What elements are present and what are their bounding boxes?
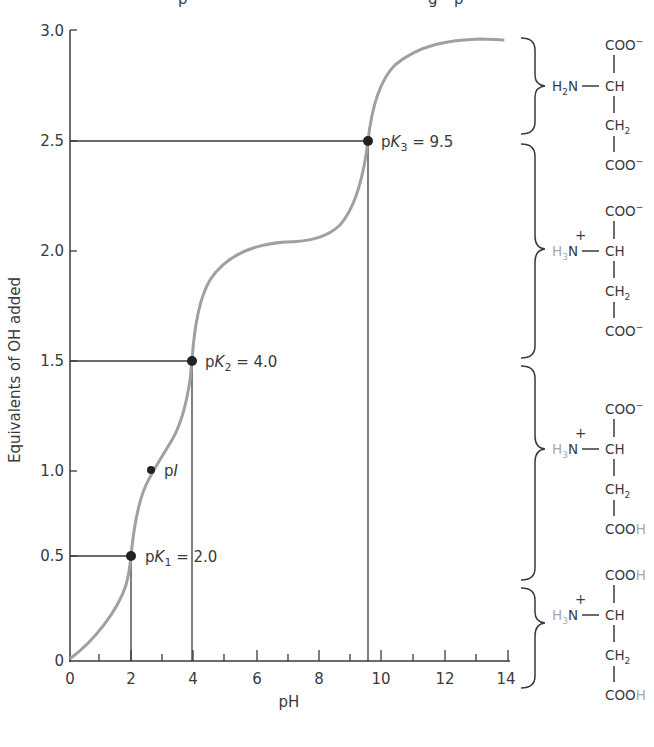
svg-text:CH2: CH2 bbox=[605, 283, 630, 302]
brace-1 bbox=[521, 38, 545, 134]
svg-text:H3N: H3N bbox=[552, 607, 578, 626]
structure-3: COO− + H3N CH CH2 COOH bbox=[552, 400, 646, 537]
svg-text:+: + bbox=[575, 425, 586, 441]
title-fragment-1: p bbox=[178, 0, 188, 8]
x-tick-8: 8 bbox=[314, 670, 324, 688]
pk2-point bbox=[187, 356, 197, 366]
y-ticks bbox=[70, 30, 77, 556]
y-axis-title: Equivalents of OH added bbox=[6, 277, 24, 463]
svg-text:COO−: COO− bbox=[605, 322, 643, 339]
y-tick-0-5: 0.5 bbox=[40, 547, 64, 565]
pi-point bbox=[147, 466, 155, 474]
structure-1: COO− H2N CH CH2 COO− bbox=[552, 36, 643, 173]
data-points bbox=[126, 136, 373, 561]
braces bbox=[521, 38, 545, 688]
pk3-label: pK3 = 9.5 bbox=[381, 133, 453, 154]
x-axis-title: pH bbox=[279, 693, 300, 711]
x-tick-2: 2 bbox=[126, 670, 136, 688]
svg-text:CH2: CH2 bbox=[605, 647, 630, 666]
svg-text:H3N: H3N bbox=[552, 243, 578, 262]
x-tick-12: 12 bbox=[435, 670, 454, 688]
x-tick-14: 14 bbox=[496, 670, 515, 688]
svg-text:CH2: CH2 bbox=[605, 481, 630, 500]
pk1-point bbox=[126, 551, 136, 561]
x-tick-6: 6 bbox=[252, 670, 262, 688]
svg-text:+: + bbox=[575, 591, 586, 607]
x-tick-labels: 0 2 4 6 8 10 12 14 bbox=[65, 670, 515, 688]
brace-2 bbox=[521, 144, 545, 358]
structure-2: COO− + H3N CH CH2 COO− bbox=[552, 202, 643, 339]
svg-text:COOH: COOH bbox=[605, 567, 646, 583]
pk3-point bbox=[363, 136, 373, 146]
svg-text:H3N: H3N bbox=[552, 441, 578, 460]
reference-lines bbox=[70, 141, 368, 661]
svg-text:CH: CH bbox=[605, 78, 625, 94]
y-tick-3-0: 3.0 bbox=[40, 22, 64, 40]
titration-curve bbox=[71, 39, 503, 658]
x-tick-0: 0 bbox=[65, 670, 75, 688]
pi-label: pI bbox=[164, 462, 179, 480]
svg-text:COO−: COO− bbox=[605, 156, 643, 173]
brace-3 bbox=[521, 366, 545, 580]
svg-text:COOH: COOH bbox=[605, 687, 646, 703]
brace-4 bbox=[521, 588, 545, 688]
y-tick-labels: 0 0.5 1.0 1.5 2.0 2.5 3.0 bbox=[40, 22, 64, 670]
title-fragment-2: g bbox=[428, 0, 438, 8]
y-tick-2-5: 2.5 bbox=[40, 132, 64, 150]
pk2-label: pK2 = 4.0 bbox=[205, 353, 277, 374]
svg-text:COO−: COO− bbox=[605, 36, 643, 53]
axes bbox=[69, 30, 510, 662]
x-ticks bbox=[99, 650, 508, 661]
svg-text:CH: CH bbox=[605, 243, 625, 259]
pk1-label: pK1 = 2.0 bbox=[145, 548, 217, 569]
y-tick-1-5: 1.5 bbox=[40, 352, 64, 370]
svg-text:COO−: COO− bbox=[605, 400, 643, 417]
structure-4: COOH + H3N CH CH2 COOH bbox=[552, 567, 646, 703]
titration-chart: p g p 0 0.5 1.0 1.5 2.0 bbox=[0, 0, 654, 747]
y-tick-2-0: 2.0 bbox=[40, 242, 64, 260]
svg-text:CH: CH bbox=[605, 607, 625, 623]
svg-text:COO−: COO− bbox=[605, 202, 643, 219]
cut-title: p g p bbox=[178, 0, 464, 8]
svg-text:H2N: H2N bbox=[552, 78, 578, 97]
svg-text:COOH: COOH bbox=[605, 521, 646, 537]
y-tick-0: 0 bbox=[54, 652, 64, 670]
x-tick-4: 4 bbox=[188, 670, 198, 688]
title-fragment-3: p bbox=[454, 0, 464, 8]
y-tick-1-0: 1.0 bbox=[40, 462, 64, 480]
x-tick-10: 10 bbox=[371, 670, 390, 688]
svg-text:CH2: CH2 bbox=[605, 117, 630, 136]
svg-text:+: + bbox=[575, 227, 586, 243]
svg-text:CH: CH bbox=[605, 441, 625, 457]
